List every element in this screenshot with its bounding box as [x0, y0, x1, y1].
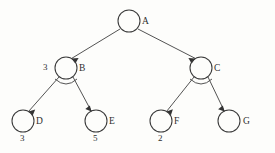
tree-graphics	[0, 0, 275, 153]
edge-a-b	[72, 29, 121, 63]
edge-b-d	[29, 77, 60, 115]
node-value-d: 3	[20, 134, 25, 143]
node-label-e: E	[109, 117, 115, 127]
node-label-a: A	[142, 17, 149, 27]
node-circle-f	[150, 110, 172, 132]
node-value-f: 2	[158, 134, 163, 143]
edge-c-f	[167, 77, 195, 115]
tree-diagram-figure: A B C D E F G 3 3 5 2	[0, 0, 275, 153]
node-value-b: 3	[43, 63, 48, 72]
edge-b-e	[73, 77, 92, 112]
node-label-d: D	[36, 117, 43, 127]
node-circle-a	[118, 10, 140, 32]
node-value-e: 5	[93, 134, 98, 143]
node-circle-e	[85, 110, 107, 132]
node-circle-g	[218, 110, 240, 132]
node-circle-d	[12, 110, 34, 132]
node-circle-b	[55, 57, 77, 79]
angle-arc-b	[55, 79, 77, 84]
node-label-c: C	[214, 64, 220, 74]
node-label-b: B	[79, 64, 85, 74]
edge-a-c	[138, 29, 196, 64]
node-circle-c	[190, 57, 212, 79]
arrowhead-c-g	[218, 106, 224, 112]
node-label-f: F	[174, 117, 179, 127]
node-label-g: G	[243, 117, 250, 127]
angle-arc-c	[190, 79, 212, 84]
edge-c-g	[208, 77, 225, 112]
